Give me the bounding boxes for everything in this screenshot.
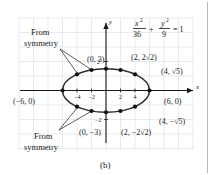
equation-equals-one: = 1: [173, 25, 184, 34]
x-tick-label-neg2: −2: [89, 94, 95, 100]
equation-x-exponent: 2: [140, 17, 143, 23]
label-4-sqrt5: (4, √5): [161, 67, 183, 76]
point-4-sqrt5: [133, 72, 137, 76]
equation-y-numerator: y: [160, 19, 165, 28]
label-0-neg3: (0, −3): [79, 128, 101, 137]
label-2-2sqrt2: (2, 2√2): [131, 53, 157, 62]
point-4-negsqrt5: [133, 105, 137, 109]
equation-plus: +: [149, 25, 154, 34]
annotation-bottom-line2: symmetry: [24, 142, 59, 152]
y-tick-label-neg2: −2: [95, 117, 101, 123]
point-0-3: [104, 67, 108, 71]
point-6-0: [147, 88, 151, 92]
x-tick-label-2: 2: [119, 94, 122, 100]
x-tick-label-4: 4: [134, 94, 137, 100]
label-neg6-0: (−6, 0): [13, 97, 35, 106]
x-tick-label-neg4: −4: [74, 94, 80, 100]
ellipse-figure: x y −4 −2 2 4 2 −2: [0, 0, 219, 175]
point-neg2-neg2sqrt2: [89, 109, 93, 113]
label-2-neg2sqrt2: (2, −2√2): [121, 128, 152, 137]
figure-caption: (b): [100, 160, 111, 170]
label-4-negsqrt5: (4, −√5): [159, 117, 186, 126]
annotation-bottom-line1: From: [34, 131, 53, 141]
point-0-neg3: [104, 110, 108, 114]
equation-x-numerator: x: [134, 19, 139, 28]
point-neg6-0: [60, 88, 64, 92]
label-6-0: (6, 0): [164, 97, 182, 106]
point-2-2sqrt2: [118, 68, 122, 72]
equation-y-exponent: 2: [166, 17, 169, 23]
point-2-neg2sqrt2: [118, 109, 122, 113]
equation-x-denominator: 36: [133, 30, 141, 39]
annotation-top-line2: symmetry: [24, 38, 59, 48]
annotation-top-line1: From: [31, 27, 50, 37]
label-0-3: (0, 3): [87, 55, 105, 64]
equation-y-denominator: 9: [162, 30, 166, 39]
